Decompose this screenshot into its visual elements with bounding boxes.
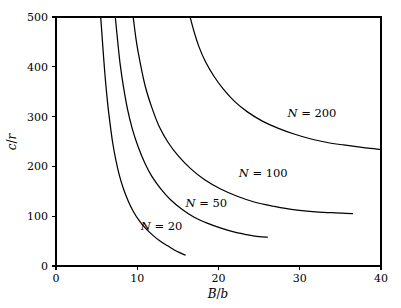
x-tick-label: 30 (293, 272, 307, 285)
series-label: N = 50 (184, 196, 227, 210)
x-axis-ticks (56, 266, 381, 270)
x-axis-title: B/b (207, 287, 229, 301)
x-tick-label: 10 (130, 272, 144, 285)
x-tick-label: 20 (212, 272, 226, 285)
y-tick-label: 300 (27, 111, 48, 124)
y-tick-label: 200 (27, 160, 48, 173)
x-tick-label: 40 (374, 272, 388, 285)
series-label: N = 100 (238, 166, 288, 180)
y-axis-ticks (52, 17, 56, 266)
svg-text:c/r: c/r (5, 132, 19, 150)
y-tick-label: 100 (27, 210, 48, 223)
chart-canvas: 010203040 0100200300400500 N = 200N = 10… (0, 0, 401, 308)
data-curve (190, 17, 381, 149)
plot-frame (56, 17, 381, 266)
svg-text:B/b: B/b (207, 287, 229, 301)
series-label: N = 20 (140, 219, 183, 233)
series-label: N = 200 (286, 106, 336, 120)
y-tick-label: 500 (27, 11, 48, 24)
y-tick-label: 400 (27, 61, 48, 74)
series-annotations-group: N = 200N = 100N = 50N = 20 (140, 106, 337, 233)
x-axis-tick-labels: 010203040 (53, 272, 389, 285)
chart-figure: 010203040 0100200300400500 N = 200N = 10… (0, 0, 401, 308)
y-tick-label: 0 (41, 260, 48, 273)
x-tick-label: 0 (53, 272, 60, 285)
y-axis-title: c/r (5, 132, 19, 150)
y-axis-tick-labels: 0100200300400500 (27, 11, 48, 273)
